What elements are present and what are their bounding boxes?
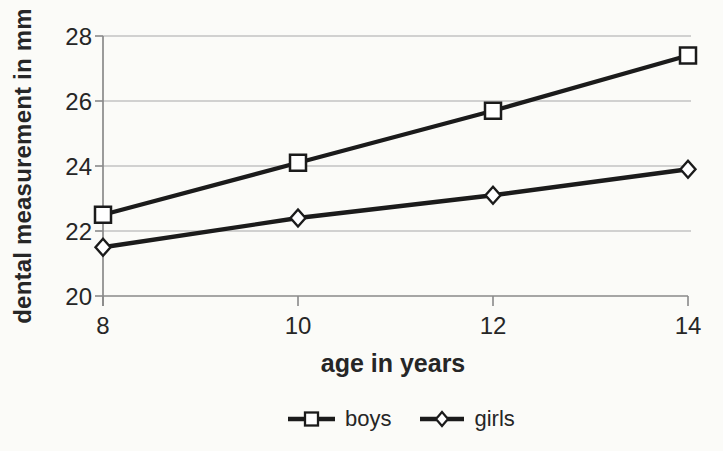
legend-item-girls: girls <box>419 406 514 432</box>
legend-label-girls: girls <box>474 406 514 432</box>
y-tick-label-22: 22 <box>65 218 92 245</box>
y-tick-label-28: 28 <box>65 23 92 50</box>
x-tick-label-14: 14 <box>675 312 702 339</box>
series-line-boys <box>103 56 688 215</box>
marker-boys-12 <box>485 103 501 119</box>
marker-boys-14 <box>680 48 696 64</box>
marker-girls-14 <box>681 161 696 178</box>
marker-girls-8 <box>96 239 111 256</box>
marker-girls-12 <box>486 187 501 204</box>
y-tick-label-26: 26 <box>65 88 92 115</box>
legend-item-boys: boys <box>287 406 391 432</box>
x-tick-label-8: 8 <box>96 312 109 339</box>
y-tick-label-24: 24 <box>65 153 92 180</box>
marker-girls-10 <box>291 210 306 227</box>
legend-girls-diamond-icon <box>419 410 465 428</box>
legend-label-boys: boys <box>345 406 391 432</box>
legend: boys girls <box>287 406 515 432</box>
x-tick-label-10: 10 <box>285 312 312 339</box>
series-line-girls <box>103 169 688 247</box>
chart-plot-area: 20222426288101214 <box>0 0 723 451</box>
y-axis-title: dental measurement in mm <box>9 8 37 324</box>
dental-growth-chart: 20222426288101214 dental measurement in … <box>0 0 723 451</box>
marker-boys-8 <box>95 207 111 223</box>
x-axis-title: age in years <box>321 349 466 378</box>
marker-boys-10 <box>290 155 306 171</box>
x-tick-label-12: 12 <box>480 312 507 339</box>
y-tick-label-20: 20 <box>65 283 92 310</box>
legend-boys-square-icon <box>287 410 336 428</box>
